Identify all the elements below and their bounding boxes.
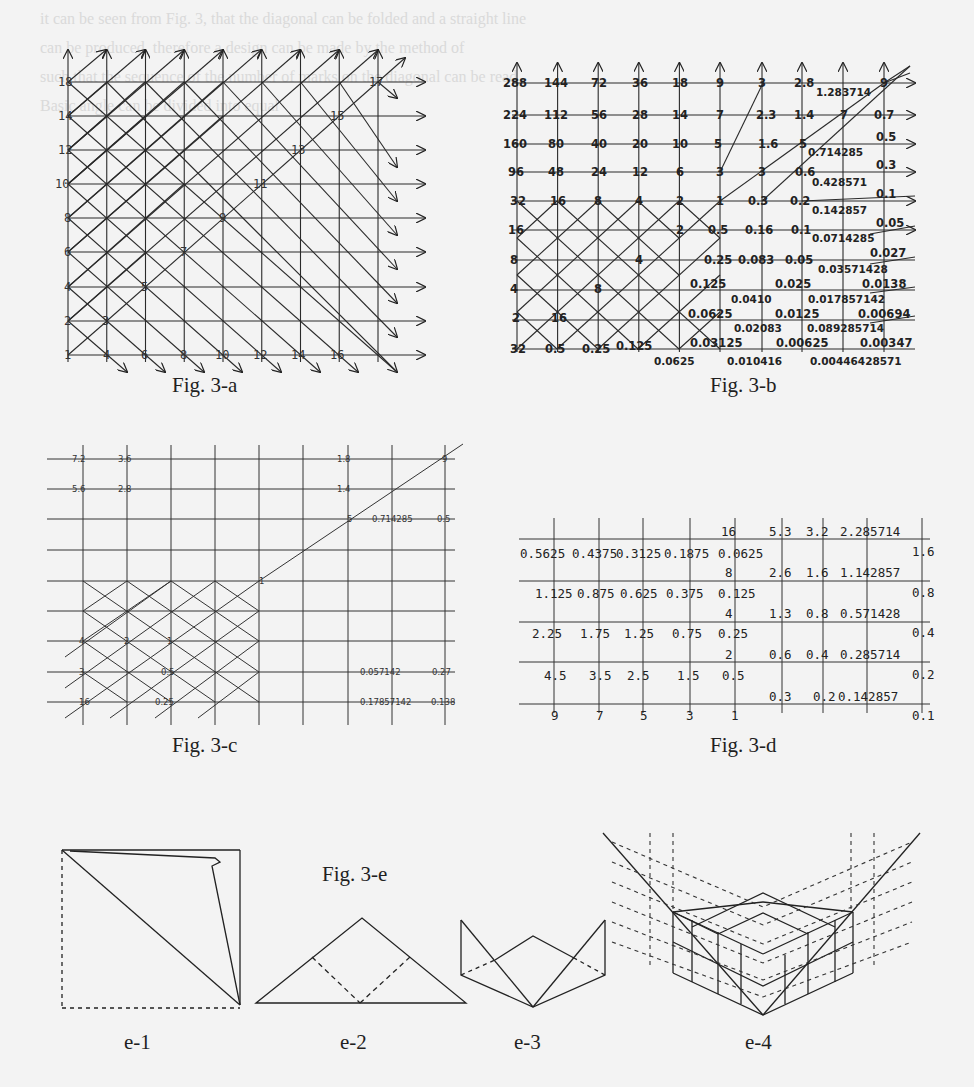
fig-3c-label: 0.138 [431,697,455,707]
fig-3a-left-label: 4 [64,280,71,294]
fig-3a-left-label: 14 [58,109,72,123]
fig-3c-label: 1.8 [337,454,351,464]
fig-3c-label: 0.25 [155,697,174,707]
fig-3b-cell: 72 [591,76,607,90]
fig-3a-left-label: 6 [64,245,71,259]
fig-3b-cell: 0.7 [874,108,894,122]
fig-3d-right-cell: 0.3 [769,689,792,704]
fig-3c-label: 3.6 [118,454,132,464]
fig-3d-bottom-label: 3 [686,708,694,723]
fig-3d-cell: 1.125 [535,586,573,601]
fig-3e4-label: e-4 [745,1030,772,1055]
fig-3a-diagonal-label: 13 [291,143,305,157]
fig-3d-right-cell: 1.3 [769,606,792,621]
fig-3d-mid-label: 4 [725,606,733,621]
fig-3d-right-cell: 0.285714 [840,647,900,662]
fig-3d-cell: 0.3125 [616,546,661,561]
fig-3b-cell: 0.1 [876,187,896,201]
fig-3b-cell: 28 [632,108,648,122]
fig-3b-cell: 8 [594,194,602,208]
fig-3a-diagonal-label: 15 [330,109,344,123]
fig-3b-sub-label: 0.03571428 [818,263,888,275]
fig-3c-label: 4 [79,636,84,646]
fig-3b-cell: 7 [840,108,848,122]
fig-3c-label: 0.17857142 [360,697,411,707]
fig-3a-diagram: 18 14 12 10 8 6 4 2 1 4 6 8 10 12 14 16 … [0,0,974,1087]
fig-3d-bottom-label: 5 [640,708,648,723]
fig-3a-left-label: 8 [64,211,71,225]
fig-3a-diagonal-label: 9 [219,211,226,225]
fig-3b-cell: 14 [672,108,688,122]
fig-3d-cell: 2.25 [532,626,562,641]
fig-3a-caption: Fig. 3-a [172,373,237,398]
fig-3b-sub-label: 0.02083 [734,322,782,334]
fig-3b-cell: 10 [672,137,688,151]
fig-3b-cell: 32 [510,194,526,208]
fig-3b-cell: 8 [510,253,518,267]
fig-3c-label: 1 [167,636,172,646]
fig-3b-cell: 2 [676,223,684,237]
fig-3b-cell: 0.5 [545,342,565,356]
fig-3b-sub-label: 0.0625 [654,355,695,367]
fig-3a-diagonal-label: 7 [180,245,187,259]
fig-3a-bottom-label: 8 [180,348,187,362]
fig-3a-bottom-label: 4 [103,348,110,362]
fig-3d-cell: 0.375 [666,586,704,601]
fig-3b-cell: 1.4 [794,108,814,122]
fig-3b-sub-label: 0.428571 [812,176,867,188]
fig-3d-cell: 0.875 [577,586,615,601]
fig-3d-right-cell: 0.6 [769,647,792,662]
fig-3e2-drawing [256,918,466,1003]
fig-3d-bottom-label: 7 [596,708,604,723]
fig-3e2-label: e-2 [340,1030,367,1055]
fig-3d-cell: 1.75 [580,626,610,641]
fig-3a-left-label: 18 [58,75,72,89]
fig-3c-label: 1.4 [337,484,351,494]
fig-3d-cell: 1.5 [677,668,700,683]
fig-3c-label: 5 [347,514,352,524]
fig-3d-cell: 2.5 [627,668,650,683]
fig-3b-cell: 2 [676,194,684,208]
fig-3e1-label: e-1 [124,1030,151,1055]
fig-3b-cell: 0.5 [876,130,896,144]
fig-3d-cell: 0.1875 [664,546,709,561]
fig-3c-label: 7.2 [72,454,86,464]
fig-3c-label: 9 [442,454,447,464]
fig-3a-bottom-label: 14 [291,348,305,362]
fig-3a-left-label: 12 [58,143,72,157]
fig-3b-cell: 3 [716,165,724,179]
fig-3b-cell: 0.2 [790,194,810,208]
fig-3b-cell: 48 [548,165,564,179]
fig-3b-sub-label: 0.010416 [727,355,782,367]
fig-3d-right-cell: 0.4 [806,647,829,662]
fig-3c-label: 5.6 [72,484,86,494]
fig-3b-cell: 0.083 [738,253,774,267]
fig-3b-cell: 20 [632,137,648,151]
fig-3b-sub-label: 0.017857142 [808,293,885,305]
document-page: it can be seen from Fig. 3, that the dia… [0,0,974,1087]
fig-3b-cell: 96 [508,165,524,179]
fig-3b-sub-label: 0.0410 [731,293,772,305]
fig-3d-cell: 4.5 [544,668,567,683]
fig-3d-cell: 0.25 [718,626,748,641]
fig-3b-cell: 4 [635,253,643,267]
fig-3c-grid [47,444,463,725]
fig-3b-cell: 224 [503,108,527,122]
fig-3b-cell: 0.16 [745,223,773,237]
fig-3c-label: 1 [259,576,264,586]
fig-3b-cell: 0.025 [775,277,811,291]
fig-3b-cell: 2 [512,311,520,325]
fig-3b-cell: 0.0125 [775,307,819,321]
fig-3b-cell: 144 [544,76,568,90]
fig-3b-sub-label: 1.283714 [816,86,871,98]
fig-3b-cell: 0.03125 [690,336,742,350]
fig-3a-bottom-label: 6 [141,348,148,362]
fig-3c-label: 0.27 [432,667,451,677]
fig-3d-right-cell: 2.6 [769,565,792,580]
fig-3d-bottom-label: 9 [551,708,559,723]
fig-3b-cell: 4 [635,194,643,208]
fig-3b-cell: 0.027 [870,246,906,260]
fig-3c-caption: Fig. 3-c [172,733,237,758]
fig-3d-mid-label: 2 [725,647,733,662]
fig-3d-mid-label: 16 [721,524,736,539]
